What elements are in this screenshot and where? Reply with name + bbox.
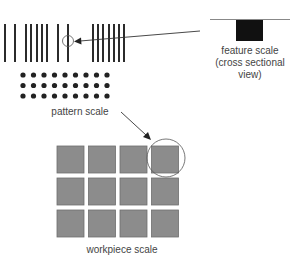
feature-scale-line2: (cross sectional	[214, 57, 286, 69]
workpiece-scale-label: workpiece scale	[72, 244, 172, 256]
workpiece-grid	[57, 146, 179, 237]
feature-cross-section	[210, 20, 290, 42]
line-pattern	[5, 24, 124, 62]
pattern-scale-label: pattern scale	[44, 106, 116, 118]
feature-scale-line3: view)	[214, 69, 286, 81]
dot-pattern	[20, 72, 109, 98]
feature-scale-label: feature scale (cross sectional view)	[214, 45, 286, 81]
pattern-arrow	[121, 112, 151, 140]
diagram-canvas	[0, 0, 296, 262]
feature-scale-line1: feature scale	[214, 45, 286, 57]
